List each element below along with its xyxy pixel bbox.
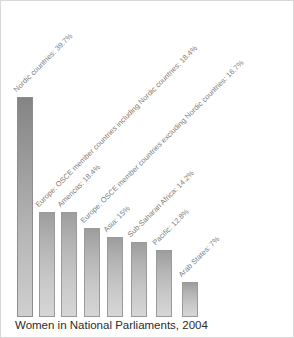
bar <box>84 228 100 317</box>
bar <box>131 242 147 317</box>
bar-label: Sub-Saharan Africa: 14.2% <box>126 169 196 239</box>
chart-figure: Nordic countries: 39.7%Europe: OSCE memb… <box>0 0 294 338</box>
bar <box>156 250 172 317</box>
bar <box>107 237 123 317</box>
bar <box>39 212 55 317</box>
bar <box>182 282 198 317</box>
bar-label: Arab States: 7% <box>177 234 222 279</box>
bar-label: Nordic countries: 39.7% <box>12 31 75 94</box>
chart-title: Women in National Parliaments, 2004 <box>15 319 208 331</box>
chart-plot-area: Nordic countries: 39.7%Europe: OSCE memb… <box>1 1 294 338</box>
bar <box>61 212 77 317</box>
bar <box>17 97 33 317</box>
